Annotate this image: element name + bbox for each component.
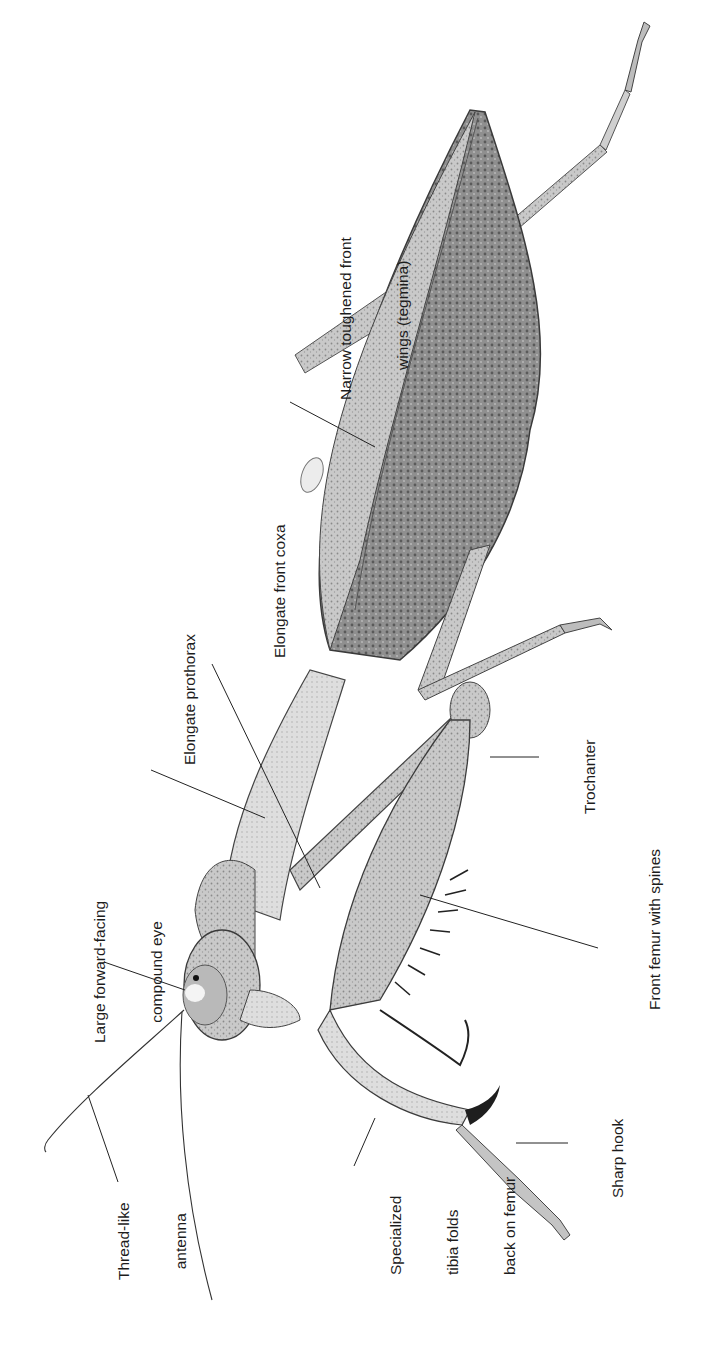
label-front-coxa: Elongate front coxa	[232, 524, 327, 658]
mantis-anatomy-figure: Narrow toughened front wings (tegmina) E…	[0, 0, 717, 1362]
label-tibia: Specialized tibia folds back on femur	[348, 1177, 557, 1275]
label-sharp-hook: Sharp hook	[570, 1119, 665, 1198]
label-compound-eye: Large forward-facing compound eye	[52, 901, 204, 1043]
label-antenna: Thread-like antenna	[76, 1202, 228, 1280]
label-trochanter: Trochanter	[542, 740, 637, 814]
label-tegmina: Narrow toughened front wings (tegmina)	[298, 237, 450, 400]
label-front-femur: Front femur with spines	[607, 849, 702, 1010]
label-prothorax: Elongate prothorax	[142, 634, 237, 765]
front-femur	[330, 720, 470, 1010]
